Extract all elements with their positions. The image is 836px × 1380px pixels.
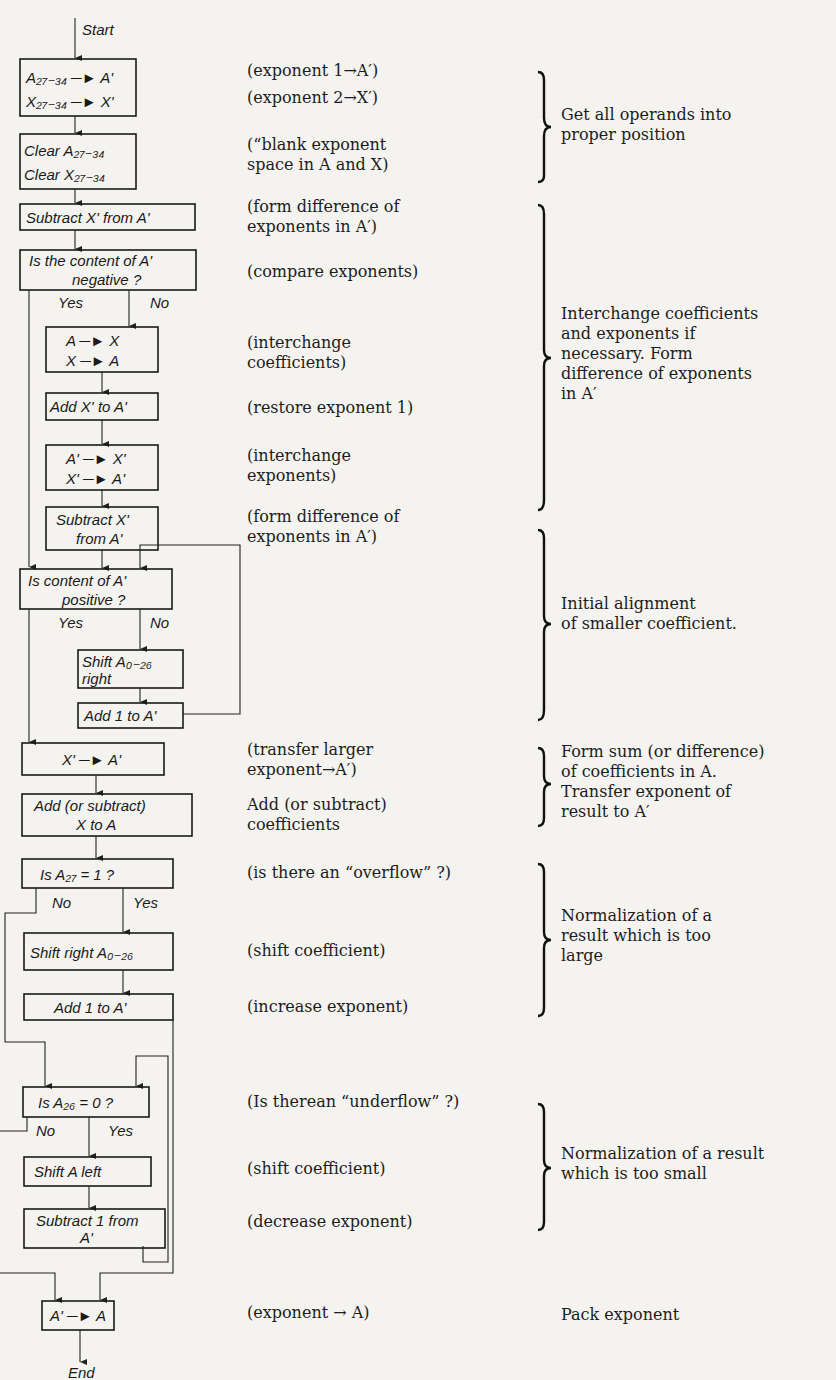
branch-no: No: [36, 1122, 55, 1139]
comment-exponent-to-a: (exponent → A): [247, 1303, 370, 1323]
desc-get-operands: Get all operands into proper position: [561, 105, 731, 145]
comment-underflow: (Is therean “underflow” ?): [247, 1092, 459, 1112]
box-text: Is A₂₆ = 0 ?: [38, 1094, 114, 1111]
desc-normalize-large: Normalization of a result which is too l…: [561, 906, 712, 966]
box-text: A' ─► X': [65, 450, 127, 467]
box-text: Subtract X': [56, 511, 130, 528]
comment-interchange-coefficients: (interchange coefficients): [247, 333, 351, 373]
desc-form-sum: Form sum (or difference) of coefficients…: [561, 742, 764, 822]
comment-blank-exponent: (“blank exponent space in A and X): [247, 135, 388, 175]
box-text: Shift right A₀₋₂₆: [30, 944, 133, 961]
box-text: Subtract 1 from: [36, 1212, 139, 1229]
box-text: Subtract X' from A': [26, 209, 151, 226]
box-text: positive ?: [61, 591, 126, 608]
start-label: Start: [82, 21, 115, 38]
box-text: Add 1 to A': [83, 707, 157, 724]
desc-interchange: Interchange coefficients and exponents i…: [561, 304, 758, 404]
box-text: right: [82, 670, 112, 687]
box-text: A₂₇₋₃₄ ─► A': [25, 69, 114, 86]
box-text: Is the content of A': [29, 252, 153, 269]
box-text: negative ?: [72, 271, 142, 288]
comment-decrease-exponent: (decrease exponent): [247, 1212, 412, 1232]
comment-interchange-exponents: (interchange exponents): [247, 446, 351, 486]
brace-operands: [538, 72, 551, 182]
comment-shift-coefficient: (shift coefficient): [247, 941, 385, 961]
desc-pack-exponent: Pack exponent: [561, 1305, 679, 1325]
comment-exponent2: (exponent 2→X′): [247, 88, 378, 108]
comment-form-difference-2: (form difference of exponents in A′): [247, 507, 399, 547]
comment-increase-exponent: (increase exponent): [247, 997, 408, 1017]
end-label: End: [68, 1364, 95, 1380]
box-text: Add X' to A': [49, 398, 128, 415]
branch-yes: Yes: [58, 614, 84, 631]
brace-underflow: [538, 1104, 551, 1230]
brace-alignment: [538, 530, 551, 720]
box-text: A ─► X: [65, 332, 120, 349]
branch-yes: Yes: [58, 294, 84, 311]
box-text: Add (or subtract): [33, 797, 146, 814]
branch-no: No: [52, 894, 71, 911]
box-text: X ─► A: [65, 352, 119, 369]
box-text: Clear A₂₇₋₃₄: [24, 142, 104, 159]
branch-yes: Yes: [108, 1122, 134, 1139]
comment-restore-exponent: (restore exponent 1): [247, 398, 413, 418]
branch-no: No: [150, 614, 169, 631]
comment-overflow: (is there an “overflow” ?): [247, 863, 451, 883]
comment-form-difference: (form difference of exponents in A′): [247, 197, 399, 237]
box-text: A': [79, 1229, 94, 1246]
box-text: X' ─► A': [61, 751, 122, 768]
comment-exponent1: (exponent 1→A′): [247, 61, 378, 81]
box-text: Shift A left: [34, 1163, 102, 1180]
brace-overflow: [538, 864, 551, 1016]
desc-initial-alignment: Initial alignment of smaller coefficient…: [561, 594, 737, 634]
box-text: from A': [76, 530, 124, 547]
comment-add-subtract: Add (or subtract) coefficients: [247, 795, 387, 835]
box-text: X₂₇₋₃₄ ─► X': [25, 93, 115, 110]
branch-no: No: [150, 294, 169, 311]
box-text: Add 1 to A': [53, 999, 127, 1016]
box-text: Shift A₀₋₂₆: [82, 653, 152, 670]
comment-compare: (compare exponents): [247, 262, 418, 282]
box-text: X' ─► A': [65, 470, 126, 487]
comment-transfer-larger: (transfer larger exponent→A′): [247, 740, 373, 780]
box-text: A' ─► A: [49, 1307, 106, 1324]
brace-sum: [538, 748, 551, 826]
box-text: Clear X₂₇₋₃₄: [24, 166, 105, 183]
brace-interchange: [538, 205, 551, 510]
box-text: Is A₂₇ = 1 ?: [40, 866, 115, 883]
comment-shift-coefficient-2: (shift coefficient): [247, 1159, 385, 1179]
branch-yes: Yes: [133, 894, 159, 911]
box-text: X to A: [75, 816, 116, 833]
desc-normalize-small: Normalization of a result which is too s…: [561, 1144, 764, 1184]
box-text: Is content of A': [28, 572, 127, 589]
